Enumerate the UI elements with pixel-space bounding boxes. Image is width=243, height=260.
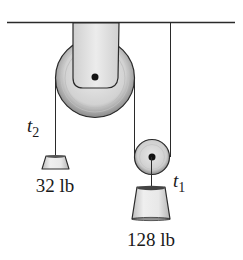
weight-large [132, 186, 170, 221]
weight-large-label: 128 lb [127, 229, 175, 250]
axle-icon [92, 74, 99, 81]
tension-label-t1: t1 [173, 170, 185, 195]
weight-small [42, 155, 69, 169]
weight-small-label: 32 lb [36, 175, 75, 196]
tension-label-t2: t2 [27, 115, 39, 140]
fixed-pulley [56, 23, 135, 118]
pulley-diagram: t2 t1 32 lb 128 lb [0, 0, 243, 260]
movable-pulley [135, 140, 170, 188]
